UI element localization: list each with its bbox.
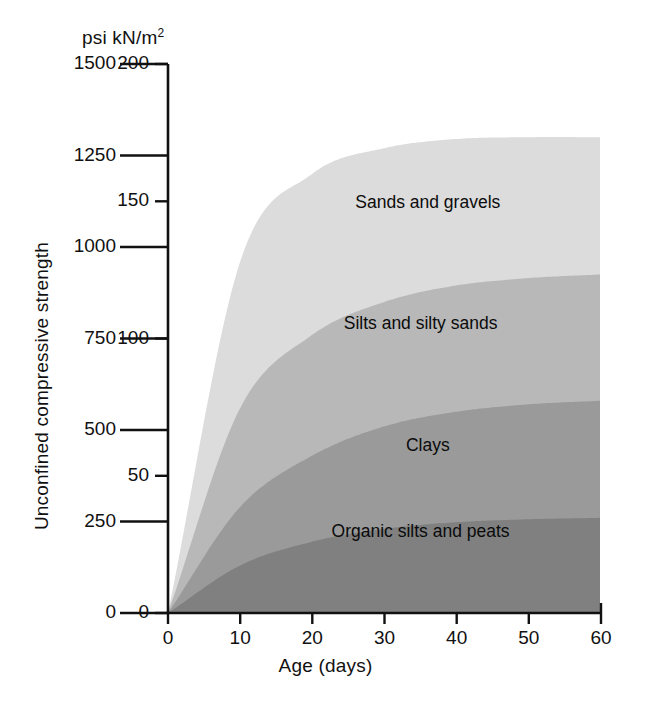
x-tick-label-40: 40 bbox=[435, 627, 479, 649]
x-tick-label-10: 10 bbox=[218, 627, 262, 649]
y-tick-label-kn-200: 200 bbox=[83, 52, 149, 74]
y-tick-label-kn-50: 50 bbox=[83, 464, 149, 486]
y-tick-label-kn-0: 0 bbox=[83, 601, 149, 623]
x-tick-label-60: 60 bbox=[579, 627, 623, 649]
band-label-silts-and-silty-sands: Silts and silty sands bbox=[261, 313, 581, 334]
band-label-sands-and-gravels: Sands and gravels bbox=[268, 192, 588, 213]
x-tick-label-50: 50 bbox=[507, 627, 551, 649]
x-axis-title: Age (days) bbox=[0, 655, 651, 677]
plot-canvas bbox=[0, 0, 651, 705]
y-tick-label-kn-100: 100 bbox=[83, 327, 149, 349]
band-label-organic-silts-and-peats: Organic silts and peats bbox=[261, 521, 581, 542]
x-tick-label-0: 0 bbox=[146, 627, 190, 649]
band-label-clays: Clays bbox=[268, 435, 588, 456]
y-ticks-kn-group bbox=[155, 64, 168, 613]
x-tick-label-30: 30 bbox=[363, 627, 407, 649]
y-axis-title: Unconfined compressive strength bbox=[31, 176, 53, 596]
chart-figure: psi kN/m2 0250500750100012501500 0501001… bbox=[0, 0, 651, 705]
x-ticks-group bbox=[168, 613, 601, 624]
y-tick-label-psi-1250: 1250 bbox=[26, 144, 116, 166]
x-tick-label-20: 20 bbox=[290, 627, 334, 649]
y-tick-label-kn-150: 150 bbox=[83, 189, 149, 211]
